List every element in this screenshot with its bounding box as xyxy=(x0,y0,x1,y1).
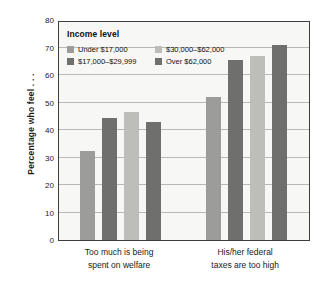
bar-chart-figure: Percentage who feel . . . 01020304050607… xyxy=(0,0,333,294)
y-axis-tick-label: 20 xyxy=(30,182,54,190)
legend-title: Income level xyxy=(67,29,241,39)
y-axis-tick-label: 0 xyxy=(30,237,54,245)
x-axis-category-label-line: spent on welfare xyxy=(59,259,179,272)
x-axis-category-label-line: taxes are too high xyxy=(185,259,305,272)
x-axis-category-label: Too much is beingspent on welfare xyxy=(59,246,179,272)
legend-label: Under $17,000 xyxy=(78,45,128,54)
y-axis-tick-label: 70 xyxy=(30,45,54,53)
legend-label: Over $62,000 xyxy=(166,57,211,66)
bar xyxy=(146,122,161,240)
bar xyxy=(124,112,139,240)
legend-swatch-icon xyxy=(155,46,162,53)
bar xyxy=(80,151,95,240)
x-axis-category-labels: Too much is beingspent on welfareHis/her… xyxy=(58,246,310,286)
y-axis-tick-label: 10 xyxy=(30,210,54,218)
y-axis-tick-label: 30 xyxy=(30,155,54,163)
x-axis-category-label-line: Too much is being xyxy=(59,246,179,259)
bar xyxy=(228,60,243,240)
legend-label: $30,000–$62,000 xyxy=(166,45,224,54)
legend-label: $17,000–$29,999 xyxy=(78,57,136,66)
bar xyxy=(206,97,221,240)
legend-items: Under $17,000$30,000–$62,000$17,000–$29,… xyxy=(67,43,241,67)
chart-legend: Income level Under $17,000$30,000–$62,00… xyxy=(67,29,241,67)
x-axis-category-label-line: His/her federal xyxy=(185,246,305,259)
legend-swatch-icon xyxy=(67,58,74,65)
y-axis-tick-label: 40 xyxy=(30,127,54,135)
legend-item: Under $17,000 xyxy=(67,45,155,54)
bar xyxy=(272,45,287,240)
legend-swatch-icon xyxy=(155,58,162,65)
y-axis-tick-label: 60 xyxy=(30,72,54,80)
bar xyxy=(250,56,265,240)
bar xyxy=(102,118,117,240)
y-axis-tick-label: 80 xyxy=(30,17,54,25)
legend-item: $30,000–$62,000 xyxy=(155,45,241,54)
y-axis-tick-labels: 01020304050607080 xyxy=(30,16,54,244)
x-axis-category-label: His/her federaltaxes are too high xyxy=(185,246,305,272)
legend-item: Over $62,000 xyxy=(155,57,241,66)
plot-area: Income level Under $17,000$30,000–$62,00… xyxy=(58,21,310,241)
y-axis-tick-label: 50 xyxy=(30,100,54,108)
legend-item: $17,000–$29,999 xyxy=(67,57,155,66)
legend-swatch-icon xyxy=(67,46,74,53)
